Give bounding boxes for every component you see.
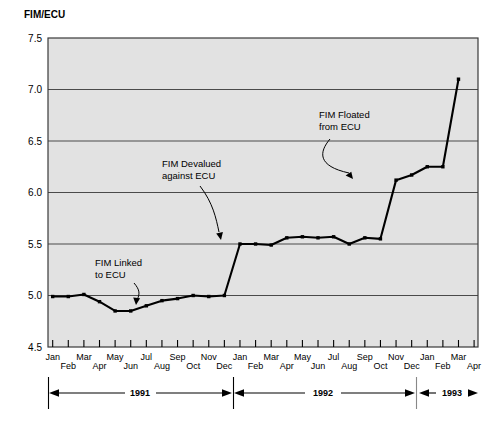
x-tick-label: Feb [248, 361, 264, 371]
y-tick-label: 6.5 [28, 136, 42, 147]
data-point-marker [129, 309, 132, 312]
x-tick-label: Dec [404, 361, 421, 371]
x-tick-label: Nov [388, 352, 405, 362]
data-point-marker [67, 295, 70, 298]
data-point-marker [176, 297, 179, 300]
annotation-fim-devalued-line2: against ECU [162, 170, 215, 181]
bracket-label-1993: 1993 [442, 388, 462, 398]
data-point-marker [113, 309, 116, 312]
data-point-marker [98, 300, 101, 303]
data-point-marker [363, 236, 366, 239]
annotation-fim-floated-line2: from ECU [319, 121, 361, 132]
y-axis-tick-labels: 7.57.06.56.05.55.04.5 [28, 33, 42, 353]
year-brackets: 1991 1992 1993 [49, 377, 479, 409]
line-chart-svg: 7.57.06.56.05.55.04.5 JanFebMarAprMayJun… [0, 0, 504, 425]
x-tick-label: Apr [280, 361, 294, 371]
data-point-marker [223, 294, 226, 297]
data-point-marker [82, 293, 85, 296]
data-point-marker [394, 178, 397, 181]
x-tick-label: Oct [186, 361, 201, 371]
x-tick-label: May [107, 352, 125, 362]
x-tick-label: Feb [435, 361, 451, 371]
bracket-label-1991: 1991 [130, 388, 150, 398]
bracket-label-1992: 1992 [313, 388, 333, 398]
annotation-fim-linked-line1: FIM Linked [95, 257, 142, 268]
data-point-marker [301, 235, 304, 238]
data-point-marker [316, 236, 319, 239]
x-tick-label: May [294, 352, 312, 362]
data-point-marker [160, 299, 163, 302]
x-tick-label: Dec [216, 361, 233, 371]
x-tick-label: Jun [311, 361, 326, 371]
x-tick-label: Jun [123, 361, 138, 371]
data-point-marker [441, 165, 444, 168]
bracket-arrow-1992-left [234, 389, 244, 396]
x-tick-label: Mar [451, 352, 467, 362]
annotation-fim-floated-line1: FIM Floated [319, 109, 370, 120]
x-tick-label: Aug [154, 361, 170, 371]
x-tick-label: Jan [420, 352, 435, 362]
bracket-arrow-1993-left [419, 389, 429, 396]
x-tick-label: Sep [357, 352, 373, 362]
x-tick-label: Jan [45, 352, 60, 362]
x-tick-label: Jul [141, 352, 153, 362]
chart-root: FIM/ECU 7.57.06.56.05.55.04.5 JanFebMarA… [0, 0, 504, 425]
x-tick-label: Jul [328, 352, 340, 362]
y-tick-label: 5.5 [28, 239, 42, 250]
x-tick-label: Oct [373, 361, 388, 371]
x-tick-label: Sep [170, 352, 186, 362]
bracket-arrow-1993-right [468, 389, 478, 396]
y-tick-label: 4.5 [28, 342, 42, 353]
data-point-marker [254, 242, 257, 245]
bracket-arrow-1991-right [222, 389, 232, 396]
y-tick-label: 7.5 [28, 33, 42, 44]
x-axis-tick-labels: JanFebMarAprMayJunJulAugSepOctNovDecJanF… [45, 352, 481, 371]
x-tick-label: Mar [263, 352, 279, 362]
data-point-marker [207, 295, 210, 298]
y-tick-label: 7.0 [28, 84, 42, 95]
bracket-arrow-1991-left [49, 389, 59, 396]
data-point-marker [51, 295, 54, 298]
annotation-fim-devalued-line1: FIM Devalued [162, 158, 221, 169]
data-point-marker [426, 165, 429, 168]
x-tick-label: Nov [201, 352, 218, 362]
data-point-marker [348, 242, 351, 245]
data-point-marker [285, 236, 288, 239]
data-point-marker [379, 237, 382, 240]
x-tick-label: Mar [76, 352, 92, 362]
data-point-marker [332, 235, 335, 238]
x-tick-label: Apr [92, 361, 106, 371]
x-tick-label: Feb [61, 361, 77, 371]
x-tick-label: Jan [233, 352, 248, 362]
x-tick-label: Apr [467, 361, 481, 371]
data-point-marker [191, 294, 194, 297]
data-point-marker [238, 242, 241, 245]
y-tick-label: 6.0 [28, 187, 42, 198]
data-point-marker [269, 243, 272, 246]
bracket-arrow-1992-right [405, 389, 415, 396]
data-point-marker [457, 78, 460, 81]
x-tick-label: Aug [341, 361, 357, 371]
annotation-fim-linked-line2: to ECU [95, 269, 126, 280]
data-point-marker [410, 173, 413, 176]
y-tick-label: 5.0 [28, 290, 42, 301]
data-point-marker [145, 304, 148, 307]
